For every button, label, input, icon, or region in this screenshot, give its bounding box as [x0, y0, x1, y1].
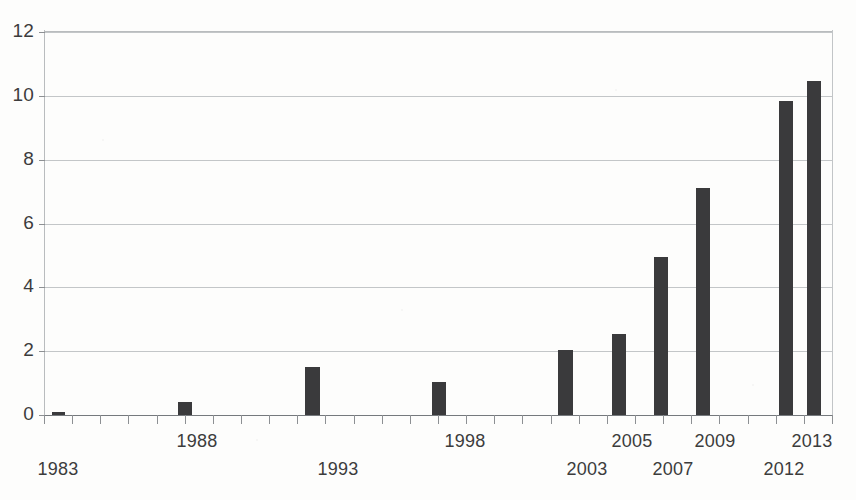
- x-tick-mark-0: [44, 415, 45, 424]
- x-tick-mark-24: [719, 415, 720, 424]
- x-tick-mark-8: [269, 415, 270, 424]
- x-tick-mark-10: [325, 415, 326, 424]
- right-spine: [832, 30, 833, 417]
- x-tick-mark-16: [494, 415, 495, 424]
- gridline-6: [44, 224, 832, 225]
- x-tick-mark-9: [297, 415, 298, 424]
- x-tick-label-1998: 1998: [445, 431, 486, 452]
- y-tick-label-10: 10: [0, 84, 34, 106]
- y-tick-mark-8: [39, 160, 45, 161]
- x-tick-mark-21: [635, 415, 636, 424]
- x-tick-mark-18: [551, 415, 552, 424]
- bar-1993: [305, 367, 320, 415]
- y-tick-label-0: 0: [0, 403, 34, 425]
- bar-chart: 121086420 198319881993199820032005200720…: [0, 0, 856, 500]
- x-tick-mark-15: [466, 415, 467, 424]
- x-tick-mark-23: [691, 415, 692, 424]
- x-tick-mark-3: [128, 415, 129, 424]
- x-tick-label-2005: 2005: [612, 431, 653, 452]
- bar-2005: [612, 334, 626, 415]
- x-tick-mark-17: [522, 415, 523, 424]
- x-tick-mark-6: [213, 415, 214, 424]
- gridline-2: [44, 351, 832, 352]
- gridline-4: [44, 287, 832, 288]
- bar-2012: [779, 101, 793, 415]
- x-tick-mark-13: [410, 415, 411, 424]
- y-tick-mark-4: [39, 287, 45, 288]
- x-tick-mark-2: [100, 415, 101, 424]
- x-tick-label-2012: 2012: [764, 459, 805, 480]
- bar-2009: [696, 188, 710, 415]
- x-tick-mark-4: [157, 415, 158, 424]
- x-tick-mark-1: [72, 415, 73, 424]
- gridline-10: [44, 96, 832, 97]
- x-tick-label-2007: 2007: [653, 459, 694, 480]
- x-tick-label-2013: 2013: [792, 431, 833, 452]
- x-tick-label-1983: 1983: [38, 459, 79, 480]
- y-tick-label-8: 8: [0, 148, 34, 170]
- x-tick-mark-26: [776, 415, 777, 424]
- x-tick-mark-28: [832, 415, 833, 424]
- y-tick-mark-2: [39, 351, 45, 352]
- bar-2013: [807, 81, 821, 415]
- x-tick-mark-12: [382, 415, 383, 424]
- x-tick-mark-25: [748, 415, 749, 424]
- plot-area: [44, 32, 832, 415]
- x-tick-label-1993: 1993: [318, 459, 359, 480]
- bar-1988: [178, 402, 192, 415]
- x-tick-mark-22: [663, 415, 664, 424]
- x-tick-mark-20: [607, 415, 608, 424]
- x-tick-mark-27: [804, 415, 805, 424]
- x-tick-mark-19: [579, 415, 580, 424]
- x-tick-mark-7: [241, 415, 242, 424]
- bar-1998: [432, 382, 446, 416]
- x-tick-label-2003: 2003: [567, 459, 608, 480]
- y-tick-mark-6: [39, 224, 45, 225]
- x-tick-label-1988: 1988: [177, 431, 218, 452]
- y-tick-label-6: 6: [0, 212, 34, 234]
- y-tick-label-4: 4: [0, 275, 34, 297]
- gridline-12: [44, 32, 832, 33]
- gridline-8: [44, 160, 832, 161]
- x-tick-mark-11: [354, 415, 355, 424]
- bar-2003: [558, 350, 573, 415]
- x-tick-mark-5: [185, 415, 186, 424]
- y-tick-mark-12: [39, 32, 45, 33]
- y-tick-label-2: 2: [0, 339, 34, 361]
- bar-2007: [654, 257, 668, 415]
- top-spine: [44, 31, 833, 32]
- y-tick-mark-10: [39, 96, 45, 97]
- y-tick-label-12: 12: [0, 20, 34, 42]
- x-tick-label-2009: 2009: [695, 431, 736, 452]
- x-tick-mark-14: [438, 415, 439, 424]
